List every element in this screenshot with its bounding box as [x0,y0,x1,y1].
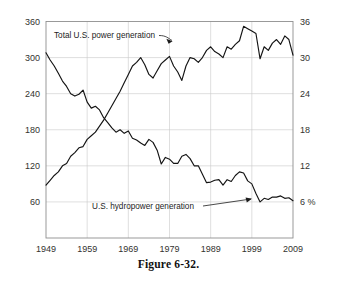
x-axis-tick-1949: 1949 [36,244,56,254]
x-axis-tick-1959: 1959 [77,244,97,254]
right-axis-tick-6: 6 % [300,197,316,207]
x-axis-tick-1979: 1979 [159,244,179,254]
annotation-label-hydropower-generation: U.S. hydropower generation [92,202,194,211]
left-axis-tick-360: 360 [25,17,40,27]
right-axis-tick-24: 24 [300,89,310,99]
left-axis-tick-120: 120 [25,161,40,171]
left-axis-tick-labels: 60120180240300360 [25,17,40,207]
left-axis-tick-180: 180 [25,125,40,135]
x-axis-tick-2009: 2009 [283,244,303,254]
x-axis-tick-1969: 1969 [118,244,138,254]
x-axis-tick-1999: 1999 [242,244,262,254]
left-axis-tick-60: 60 [30,197,40,207]
right-axis-tick-labels: 6 %1218243036 [300,17,316,207]
right-axis-tick-30: 30 [300,53,310,63]
x-axis-tick-labels: 1949195919691979198919992009 [36,244,303,254]
chart-canvas: 60120180240300360 6 %1218243036 19491959… [0,0,337,284]
annotation-label-total-power-generation: Total U.S. power generation [54,31,155,40]
left-axis-tick-240: 240 [25,89,40,99]
right-axis-tick-18: 18 [300,125,310,135]
figure-container: 60120180240300360 6 %1218243036 19491959… [0,0,337,284]
right-axis-tick-12: 12 [300,161,310,171]
figure-caption: Figure 6-32. [0,258,337,270]
x-axis-tick-1989: 1989 [201,244,221,254]
right-axis-tick-36: 36 [300,17,310,27]
left-axis-tick-300: 300 [25,53,40,63]
